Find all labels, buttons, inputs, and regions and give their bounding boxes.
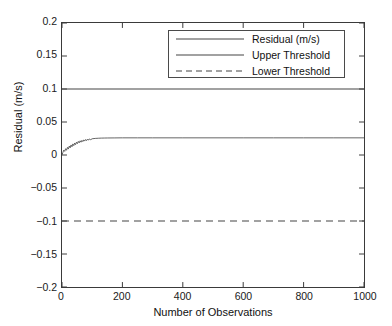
- x-tick-label: 1000: [335, 291, 392, 302]
- series-line: [62, 138, 364, 155]
- legend-item: Lower Threshold: [169, 63, 344, 79]
- x-axis-title: Number of Observations: [61, 306, 365, 318]
- legend-item: Upper Threshold: [169, 47, 344, 63]
- x-tick-label: 200: [92, 291, 152, 302]
- x-tick-label: 0: [31, 291, 91, 302]
- legend-item: Residual (m/s): [169, 31, 344, 47]
- y-tick-label: −0.1: [3, 216, 57, 227]
- y-axis-title-wrapper: Residual (m/s): [8, 52, 26, 182]
- x-tick-label: 400: [153, 291, 213, 302]
- data-lines: [62, 89, 364, 221]
- figure-canvas: 0.20.150.10.050−0.05−0.1−0.15−0.2 020040…: [0, 0, 392, 326]
- y-axis-title: Residual (m/s): [12, 82, 24, 153]
- legend-label: Residual (m/s): [252, 33, 320, 45]
- x-tick-label: 600: [213, 291, 273, 302]
- y-tick-label: −0.05: [3, 182, 57, 193]
- legend-box: Residual (m/s)Upper ThresholdLower Thres…: [168, 30, 345, 78]
- legend-label: Upper Threshold: [252, 49, 330, 61]
- legend-line-sample: [174, 48, 246, 62]
- x-axis-tick-labels: 02004006008001000: [0, 291, 392, 307]
- x-tick-label: 800: [274, 291, 334, 302]
- y-tick-label: 0.2: [3, 16, 57, 27]
- legend-label: Lower Threshold: [252, 65, 330, 77]
- y-tick-label: −0.15: [3, 249, 57, 260]
- legend-line-sample: [174, 32, 246, 46]
- legend-line-sample: [174, 64, 246, 78]
